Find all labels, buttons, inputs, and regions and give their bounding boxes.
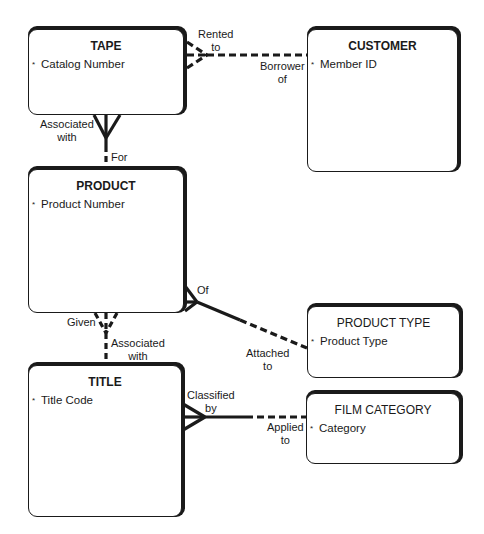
label-rented-to: Rented to — [198, 28, 233, 54]
label-associated-with-title: Associated with — [111, 337, 165, 363]
label-attached-to: Attached to — [246, 347, 289, 373]
attribute-label: Title Code — [41, 394, 93, 406]
entity-name: TAPE — [29, 39, 183, 53]
key-marker-icon: * — [310, 424, 319, 433]
entity-attribute: *Product Type — [311, 335, 459, 347]
entity-name: CUSTOMER — [308, 39, 457, 53]
entity-product-type[interactable]: PRODUCT TYPE *Product Type — [307, 306, 460, 378]
label-applied-to: Applied to — [267, 421, 304, 447]
attribute-label: Member ID — [320, 58, 377, 70]
entity-name: PRODUCT — [29, 179, 183, 193]
entity-attribute: *Title Code — [32, 394, 181, 406]
label-borrower-of: Borrower of — [260, 60, 305, 86]
label-of: Of — [197, 284, 209, 297]
entity-name: TITLE — [29, 375, 181, 389]
entity-tape[interactable]: TAPE *Catalog Number — [28, 29, 184, 115]
key-marker-icon: * — [32, 200, 41, 209]
entity-product[interactable]: PRODUCT *Product Number — [28, 169, 184, 313]
entity-attribute: *Category — [310, 422, 459, 434]
entity-customer[interactable]: CUSTOMER *Member ID — [307, 29, 458, 172]
attribute-label: Product Number — [41, 198, 125, 210]
key-marker-icon: * — [32, 396, 41, 405]
entity-name: PRODUCT TYPE — [308, 316, 459, 330]
entity-attribute: *Product Number — [32, 198, 183, 210]
label-for: For — [111, 151, 128, 164]
attribute-label: Catalog Number — [41, 58, 125, 70]
label-given: Given — [67, 316, 96, 329]
key-marker-icon: * — [32, 60, 41, 69]
entity-film-category[interactable]: FILM CATEGORY *Category — [306, 393, 460, 464]
entity-title[interactable]: TITLE *Title Code — [28, 365, 182, 517]
entity-attribute: *Catalog Number — [32, 58, 183, 70]
label-associated-with-tape: Associated with — [40, 118, 94, 144]
attribute-label: Product Type — [320, 335, 388, 347]
attribute-label: Category — [319, 422, 366, 434]
entity-name: FILM CATEGORY — [307, 403, 459, 417]
key-marker-icon: * — [311, 60, 320, 69]
key-marker-icon: * — [311, 337, 320, 346]
label-classified-by: Classified by — [187, 389, 235, 415]
entity-attribute: *Member ID — [311, 58, 457, 70]
